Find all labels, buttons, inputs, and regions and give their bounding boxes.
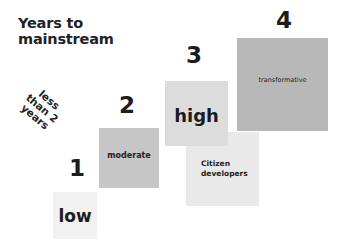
step-number-4: 4 bbox=[276, 9, 292, 32]
transformative-box: transformative bbox=[237, 38, 328, 131]
title-line-1: Years to bbox=[18, 15, 114, 31]
step-number-1: 1 bbox=[69, 157, 85, 180]
moderate-label: moderate bbox=[107, 151, 151, 160]
step-number-3: 3 bbox=[186, 44, 202, 67]
citizen-developers-label: Citizen developers bbox=[201, 159, 248, 179]
low-label: low bbox=[58, 206, 91, 226]
citizen-line-1: Citizen bbox=[201, 159, 248, 169]
title-line-2: mainstream bbox=[18, 31, 114, 47]
high-label: high bbox=[174, 105, 219, 126]
step-number-2: 2 bbox=[119, 94, 135, 117]
transformative-label: transformative bbox=[258, 76, 306, 84]
high-box: high bbox=[165, 81, 228, 146]
low-box: low bbox=[53, 192, 97, 239]
moderate-box: moderate bbox=[99, 128, 159, 188]
less-than-2-years-label: less than 2 years bbox=[8, 77, 75, 141]
citizen-line-2: developers bbox=[201, 169, 248, 179]
diagram-title: Years to mainstream bbox=[18, 15, 114, 47]
